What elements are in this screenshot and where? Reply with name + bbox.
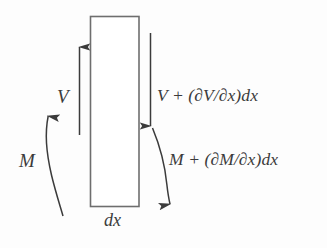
moment-left-label: M bbox=[19, 151, 35, 170]
element-width-label: dx bbox=[104, 211, 121, 229]
beam-element-rect bbox=[91, 17, 140, 207]
diagram-canvas bbox=[0, 0, 327, 248]
moment-left-arrow bbox=[46, 116, 63, 216]
shear-right-label: V + (∂V/∂x)dx bbox=[157, 87, 258, 105]
beam-element-diagram: V M V + (∂V/∂x)dx M + (∂M/∂x)dx dx bbox=[0, 0, 327, 248]
shear-left-label: V bbox=[57, 87, 69, 106]
moment-right-arrow bbox=[153, 128, 171, 204]
moment-right-label: M + (∂M/∂x)dx bbox=[169, 151, 278, 169]
